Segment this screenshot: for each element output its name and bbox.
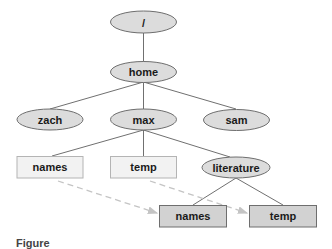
edge-max-literature xyxy=(144,130,231,157)
node-max-label: max xyxy=(132,114,155,126)
node-zach-label: zach xyxy=(38,114,63,126)
figure-caption: Figure xyxy=(16,237,50,249)
node-root-label: / xyxy=(142,17,145,29)
edge-literature-temp xyxy=(236,178,283,205)
node-temp-file-label: temp xyxy=(270,210,297,222)
edge-home-zach xyxy=(50,82,144,109)
node-temp-link-label: temp xyxy=(130,161,157,173)
node-names-file: names xyxy=(160,206,227,228)
node-sam-label: sam xyxy=(225,114,247,126)
node-temp-link: temp xyxy=(111,157,177,179)
node-home-label: home xyxy=(129,66,158,78)
node-names-link-label: names xyxy=(33,161,68,173)
node-home: home xyxy=(111,62,177,83)
node-zach: zach xyxy=(17,109,83,130)
node-names-link: names xyxy=(17,157,83,179)
node-literature: literature xyxy=(202,157,270,178)
edge-home-sam xyxy=(144,82,237,109)
edge-max-names xyxy=(52,130,144,156)
edge-literature-names xyxy=(193,178,236,205)
node-temp-file: temp xyxy=(250,206,317,228)
node-max: max xyxy=(111,109,177,130)
symlink-arrow-names xyxy=(58,181,157,213)
node-names-file-label: names xyxy=(176,210,211,222)
node-literature-label: literature xyxy=(212,162,259,174)
node-sam: sam xyxy=(204,110,270,131)
node-root: / xyxy=(111,11,177,33)
